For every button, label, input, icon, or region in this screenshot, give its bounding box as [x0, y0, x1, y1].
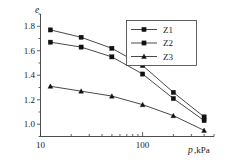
x-axis-title-group: p ,kPa — [187, 145, 210, 155]
legend-marker-z2 — [142, 41, 146, 45]
x-tick-label: 100 — [136, 140, 150, 150]
data-point-z1 — [110, 46, 114, 50]
legend-label-z3: Z3 — [163, 52, 173, 62]
data-point-z2 — [171, 96, 175, 100]
legend-marker-z1 — [142, 27, 146, 31]
data-point-z1 — [79, 35, 83, 39]
y-tick-label: 1.8 — [24, 21, 36, 31]
data-point-z1 — [48, 28, 52, 32]
y-tick-label: 1.6 — [24, 46, 36, 56]
y-tick-label: 1.0 — [24, 119, 36, 129]
y-tick-label: 1.2 — [24, 95, 35, 105]
chart-figure: 1.01.21.41.61.8 10100 e p ,kPa Z1Z2Z3 — [0, 0, 227, 163]
chart-legend: Z1Z2Z3 — [127, 21, 197, 66]
x-axis-title-units: ,kPa — [194, 145, 210, 155]
compression-curve-chart: 1.01.21.41.61.8 10100 e p ,kPa Z1Z2Z3 — [0, 0, 227, 163]
data-point-z1 — [171, 90, 175, 94]
data-point-z2 — [110, 55, 114, 59]
x-tick-label: 10 — [36, 140, 46, 150]
y-tick-label: 1.4 — [24, 70, 36, 80]
data-point-z2 — [141, 72, 145, 76]
data-point-z2 — [202, 118, 206, 122]
x-axis-title-symbol: p — [187, 145, 193, 155]
data-point-z2 — [48, 40, 52, 44]
data-point-z2 — [79, 45, 83, 49]
y-axis-title: e — [35, 5, 39, 15]
legend-label-z1: Z1 — [163, 25, 173, 35]
legend-label-z2: Z2 — [163, 38, 173, 48]
